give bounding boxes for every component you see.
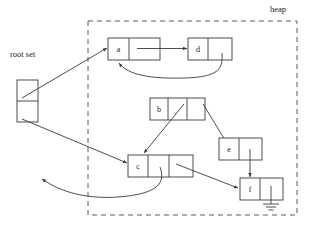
- root-set-box: [17, 80, 38, 122]
- node-f-label: f: [249, 185, 252, 194]
- node-e-label: e: [227, 145, 231, 154]
- node-b-label: b: [157, 105, 161, 114]
- root-set-label: root set: [10, 50, 35, 59]
- node-c: c: [128, 155, 193, 177]
- diagram-canvas: a d b c: [0, 0, 312, 231]
- edge-root2-to-c: [22, 119, 127, 163]
- diagram-svg: a d b c: [0, 0, 312, 231]
- node-f: f: [240, 178, 283, 200]
- node-a: a: [108, 38, 160, 60]
- node-c-label: c: [136, 162, 140, 171]
- node-d: d: [188, 38, 232, 60]
- node-b: b: [150, 98, 205, 120]
- node-a-label: a: [117, 45, 121, 54]
- node-e: e: [219, 138, 262, 160]
- heap-label: heap: [270, 5, 286, 14]
- node-d-label: d: [196, 45, 200, 54]
